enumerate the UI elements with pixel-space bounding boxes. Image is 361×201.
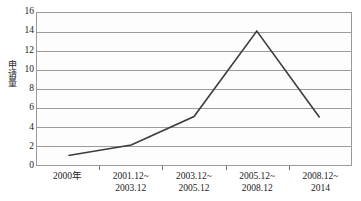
x-tick-label-line2: 2014 [289, 182, 352, 194]
y-tick-label: 4 [20, 123, 34, 133]
series-line [37, 13, 351, 165]
x-tick-label-line2: 2005.12 [162, 182, 225, 194]
x-tick-label: 2001.12~2003.12 [99, 170, 162, 194]
y-tick-label: 2 [20, 142, 34, 152]
line-chart: 申请量 0246810121416 2000年2001.12~2003.1220… [0, 0, 361, 201]
x-tick-label: 2000年 [36, 170, 99, 182]
y-tick-label: 10 [20, 65, 34, 75]
x-tick-label-line1: 2001.12~ [113, 171, 149, 181]
y-tick-label: 16 [20, 7, 34, 17]
x-tick-label: 2008.12~2014 [289, 170, 352, 194]
x-tick-label-line1: 2000年 [53, 171, 82, 181]
x-tick-label-line2: 2008.12 [226, 182, 289, 194]
x-tick-label: 2003.12~2005.12 [162, 170, 225, 194]
x-tick-label-line2: 2003.12 [99, 182, 162, 194]
x-tick-label: 2005.12~2008.12 [226, 170, 289, 194]
y-tick-label: 12 [20, 46, 34, 56]
plot-area [36, 12, 352, 166]
x-tick-label-line1: 2005.12~ [239, 171, 275, 181]
y-tick-label: 0 [20, 161, 34, 171]
y-axis-tick-labels: 0246810121416 [18, 0, 34, 201]
y-tick-label: 14 [20, 26, 34, 36]
x-tick-label-line1: 2008.12~ [302, 171, 338, 181]
y-tick-label: 8 [20, 84, 34, 94]
x-axis-tick-labels: 2000年2001.12~2003.122003.12~2005.122005.… [36, 170, 352, 201]
y-axis-title: 申请量 [3, 60, 17, 87]
y-tick-label: 6 [20, 103, 34, 113]
x-tick-label-line1: 2003.12~ [176, 171, 212, 181]
